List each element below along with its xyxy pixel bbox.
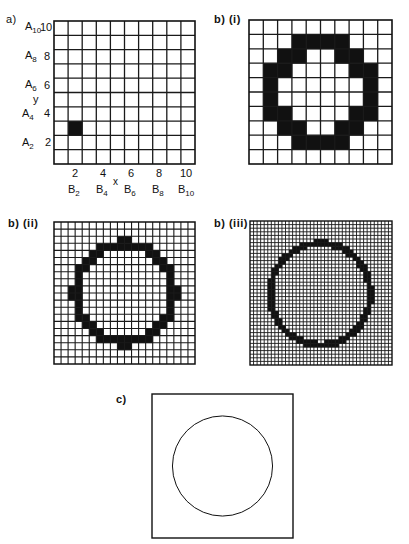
panel-a-label: a) [6,13,17,25]
tick-sub: 2 [29,142,33,151]
x-tick-value-2: 2 [72,168,78,179]
x-axis-title: x [113,176,118,187]
y-tick-label-A10: A10 [25,21,41,36]
y-tick-label-A4: A4 [22,108,34,123]
panel-a-grid [53,20,196,165]
x-tick-value-6: 6 [128,168,134,179]
filled-cell [349,121,364,136]
filled-cell [146,243,153,251]
filled-cell [263,92,278,107]
filled-cell [292,121,307,136]
filled-cell [75,300,82,308]
filled-cell [89,250,96,258]
filled-cell [167,314,174,322]
continuous-circle [172,416,272,516]
filled-cell [96,336,103,344]
y-tick-value-6: 6 [44,80,50,91]
filled-cell [96,243,103,251]
filled-cell [117,336,124,344]
filled-cell [167,293,174,301]
filled-cell [146,336,153,344]
tick-sub: 8 [32,55,36,64]
filled-cell [125,343,132,351]
filled-cell [68,286,75,294]
filled-cell [117,236,124,244]
filled-cell [349,63,364,78]
filled-cell [363,92,378,107]
filled-cell [125,243,132,251]
panel-b1-grid [248,19,393,165]
filled-cell [167,286,174,294]
filled-cell [167,279,174,287]
filled-cell [68,121,83,136]
filled-cell [117,243,124,251]
x-tick-label-B4: B4 [96,184,108,199]
panel-b1-label: b) (i) [214,13,241,25]
filled-cell [335,34,350,49]
x-tick-label-B6: B6 [124,184,136,199]
filled-cell [132,336,139,344]
tick-sub: 4 [103,189,107,198]
filled-cell [75,279,82,287]
filled-cell [349,49,364,64]
x-tick-value-8: 8 [156,168,162,179]
filled-cell [103,243,110,251]
filled-cell [146,329,153,337]
filled-cell [335,121,350,136]
filled-cell [89,321,96,329]
filled-cell [174,286,181,294]
filled-cell [306,135,321,150]
y-axis-title: y [33,94,39,105]
filled-cell [363,78,378,93]
y-tick-label-A8: A8 [25,50,37,65]
tick-sub: 2 [75,189,79,198]
filled-cell [292,34,307,49]
filled-cell [335,135,350,150]
filled-cell [167,300,174,308]
y-tick-label-A2: A2 [22,137,34,152]
filled-cell [110,243,117,251]
filled-cell [292,135,307,150]
panel-c-label: c) [116,393,127,405]
filled-cell [174,293,181,301]
filled-cell [167,272,174,280]
y-tick-value-10: 10 [40,22,52,33]
filled-cell [363,106,378,121]
filled-cell [75,307,82,315]
filled-cell [263,78,278,93]
filled-cell [82,314,89,322]
filled-cell [82,265,89,273]
filled-cell [263,106,278,121]
filled-cell [321,135,336,150]
filled-cell [306,34,321,49]
tick-sub: 6 [131,189,135,198]
filled-cell [96,329,103,337]
filled-cell [89,329,96,337]
filled-cell [89,258,96,266]
y-tick-value-8: 8 [44,51,50,62]
y-tick-label-A6: A6 [25,79,37,94]
filled-cell [132,243,139,251]
filled-cell [278,121,293,136]
panel-b3-grid [249,220,393,366]
filled-cell [278,63,293,78]
filled-cell [75,286,82,294]
tick-sub: 6 [32,84,36,93]
filled-cell [160,314,167,322]
tick-sub: 4 [29,113,33,122]
filled-cell [75,272,82,280]
filled-cell [117,343,124,351]
panel-b3-label: b) (iii) [214,217,248,229]
filled-cell [363,63,378,78]
panel-b2-grid [53,221,196,365]
filled-cell [82,258,89,266]
filled-cell [103,336,110,344]
tick-sub: 8 [159,189,163,198]
filled-cell [153,250,160,258]
x-tick-value-4: 4 [100,168,106,179]
panel-c-box [151,393,294,539]
x-tick-label-B2: B2 [68,184,80,199]
filled-cell [75,265,82,273]
x-tick-value-10: 10 [180,168,192,179]
filled-cell [349,106,364,121]
